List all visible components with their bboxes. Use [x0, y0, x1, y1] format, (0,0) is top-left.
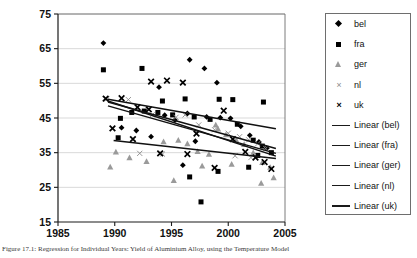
- line-swatch-icon: [331, 158, 351, 172]
- y-tick-label-65: 65: [39, 42, 51, 54]
- trendline-linear--fra-: [108, 106, 276, 153]
- legend-item-linear-bel[interactable]: Linear (bel): [326, 115, 410, 135]
- line-swatch-icon: [331, 179, 351, 193]
- legend-item-fra[interactable]: fra: [326, 34, 410, 54]
- x-thin-marker-icon: ×: [331, 78, 351, 92]
- legend-item-ger[interactable]: ger: [326, 54, 410, 74]
- y-tick-label-15: 15: [39, 216, 51, 228]
- x-tick-label-2005: 2005: [273, 227, 297, 239]
- legend-label-linear-ger: Linear (ger): [351, 160, 401, 170]
- x-marker-icon: ×: [331, 98, 351, 112]
- legend-item-linear-nl[interactable]: Linear (nl): [326, 176, 410, 196]
- y-tick-label-35: 35: [39, 146, 51, 158]
- legend-item-linear-uk[interactable]: Linear (uk): [326, 196, 410, 216]
- x-tick-label-1985: 1985: [46, 227, 70, 239]
- y-tick-label-45: 45: [39, 112, 51, 124]
- square-marker-icon: [331, 37, 351, 51]
- chart-legend: bel fra ger × nl × uk Linear (bel) Linea…: [325, 13, 411, 215]
- legend-label-linear-uk: Linear (uk): [351, 201, 397, 211]
- chart-figure: 1525354555657519851990199520002005 bel f…: [0, 0, 417, 258]
- legend-label-ger: ger: [351, 59, 367, 69]
- x-tick-label-1995: 1995: [160, 227, 184, 239]
- x-tick-label-1990: 1990: [103, 227, 127, 239]
- legend-label-linear-nl: Linear (nl): [351, 181, 395, 191]
- legend-label-bel: bel: [351, 19, 366, 29]
- legend-label-linear-fra: Linear (fra): [351, 140, 398, 150]
- diamond-marker-icon: [331, 17, 351, 31]
- legend-item-linear-fra[interactable]: Linear (fra): [326, 135, 410, 155]
- legend-label-nl: nl: [351, 80, 361, 90]
- legend-label-uk: uk: [351, 100, 364, 110]
- figure-caption: Figure 17.1: Regression for Individual Y…: [2, 245, 415, 254]
- legend-label-linear-bel: Linear (bel): [351, 120, 400, 130]
- x-tick-label-2000: 2000: [217, 227, 241, 239]
- trendline-linear--nl-: [108, 102, 276, 148]
- line-swatch-icon: [331, 118, 351, 132]
- line-swatch-icon: [331, 199, 351, 213]
- legend-item-linear-ger[interactable]: Linear (ger): [326, 155, 410, 175]
- legend-label-fra: fra: [351, 39, 365, 49]
- legend-item-nl[interactable]: × nl: [326, 75, 410, 95]
- y-tick-label-25: 25: [39, 181, 51, 193]
- line-swatch-icon: [331, 138, 351, 152]
- legend-item-bel[interactable]: bel: [326, 14, 410, 34]
- triangle-marker-icon: [331, 57, 351, 71]
- y-tick-label-75: 75: [39, 8, 51, 20]
- legend-item-uk[interactable]: × uk: [326, 95, 410, 115]
- y-tick-label-55: 55: [39, 77, 51, 89]
